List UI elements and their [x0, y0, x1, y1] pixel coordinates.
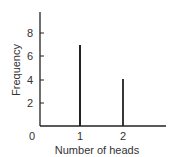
x-tick-label: 0 [29, 130, 35, 142]
y-tick-label: 6 [27, 50, 33, 62]
x-tick-label: 2 [120, 130, 126, 142]
frequency-chart: 2 4 6 8 0 1 2 Number of heads Frequency [0, 0, 174, 157]
y-axis-label: Frequency [10, 44, 22, 96]
x-tick-labels: 0 1 2 [29, 130, 126, 142]
y-tick-label: 8 [27, 27, 33, 39]
y-tick-label: 2 [27, 97, 33, 109]
y-tick-labels: 2 4 6 8 [27, 27, 33, 109]
x-axis-label: Number of heads [55, 144, 140, 156]
y-tick-label: 4 [27, 74, 33, 86]
x-tick-label: 1 [77, 130, 83, 142]
